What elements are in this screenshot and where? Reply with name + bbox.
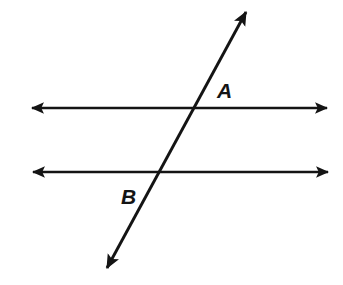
transversal-line [107, 12, 246, 268]
point-label-a: A [217, 80, 232, 101]
geometry-diagram: A B [0, 0, 343, 285]
lines-group [32, 12, 328, 268]
geometry-svg [0, 0, 343, 285]
point-label-b: B [121, 186, 136, 207]
